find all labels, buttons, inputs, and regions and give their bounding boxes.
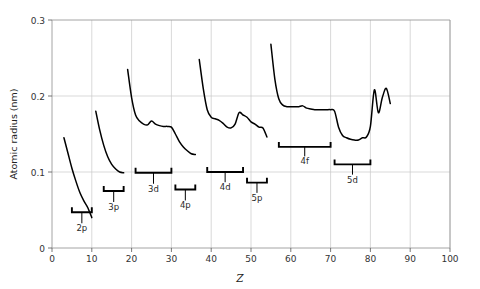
shell-label-3p: 3p xyxy=(108,202,119,212)
y-tick-label: 0.1 xyxy=(31,168,45,178)
x-tick-label: 40 xyxy=(205,254,217,264)
gridlines xyxy=(52,20,450,248)
shell-label-5p: 5p xyxy=(252,193,263,203)
shell-bracket-3d xyxy=(136,168,172,173)
chart-canvas: 0102030405060708090100 00.10.20.3 2p3p3d… xyxy=(0,0,480,289)
x-axis-title: Z xyxy=(235,272,244,284)
x-tick-label: 20 xyxy=(126,254,138,264)
data-curve-period-5 xyxy=(199,60,267,138)
shell-bracket-3p xyxy=(104,186,124,191)
data-curve-period-2 xyxy=(64,138,92,218)
x-tick-label: 60 xyxy=(285,254,297,264)
x-tick-label: 30 xyxy=(166,254,178,264)
shell-brackets: 2p3p3d4p4d5p4f5d xyxy=(72,142,371,233)
x-axis-ticks: 0102030405060708090100 xyxy=(49,248,459,264)
x-tick-label: 50 xyxy=(245,254,257,264)
y-axis-ticks: 00.10.20.3 xyxy=(31,16,52,254)
y-tick-label: 0.2 xyxy=(31,92,45,102)
shell-bracket-5d xyxy=(335,159,371,164)
atomic-radius-chart-figure: 0102030405060708090100 00.10.20.3 2p3p3d… xyxy=(0,0,480,289)
x-tick-label: 90 xyxy=(404,254,416,264)
y-tick-label: 0.3 xyxy=(31,16,45,26)
x-tick-label: 80 xyxy=(365,254,377,264)
shell-bracket-4f xyxy=(279,142,331,147)
x-tick-label: 100 xyxy=(441,254,458,264)
y-tick-label: 0 xyxy=(39,244,45,254)
shell-bracket-4p xyxy=(175,184,195,189)
shell-bracket-5p xyxy=(247,178,267,183)
data-curve-period-3 xyxy=(96,111,124,173)
data-curve-period-4 xyxy=(128,69,196,154)
shell-label-4f: 4f xyxy=(301,156,310,166)
shell-bracket-4d xyxy=(207,167,243,172)
x-tick-label: 70 xyxy=(325,254,337,264)
x-tick-label: 0 xyxy=(49,254,55,264)
shell-label-4p: 4p xyxy=(180,200,191,210)
shell-label-2p: 2p xyxy=(76,223,87,233)
shell-label-4d: 4d xyxy=(220,182,231,192)
x-tick-label: 10 xyxy=(86,254,98,264)
y-axis-title: Atomic radius (nm) xyxy=(8,88,19,179)
shell-label-5d: 5d xyxy=(347,175,358,185)
shell-label-3d: 3d xyxy=(148,184,159,194)
